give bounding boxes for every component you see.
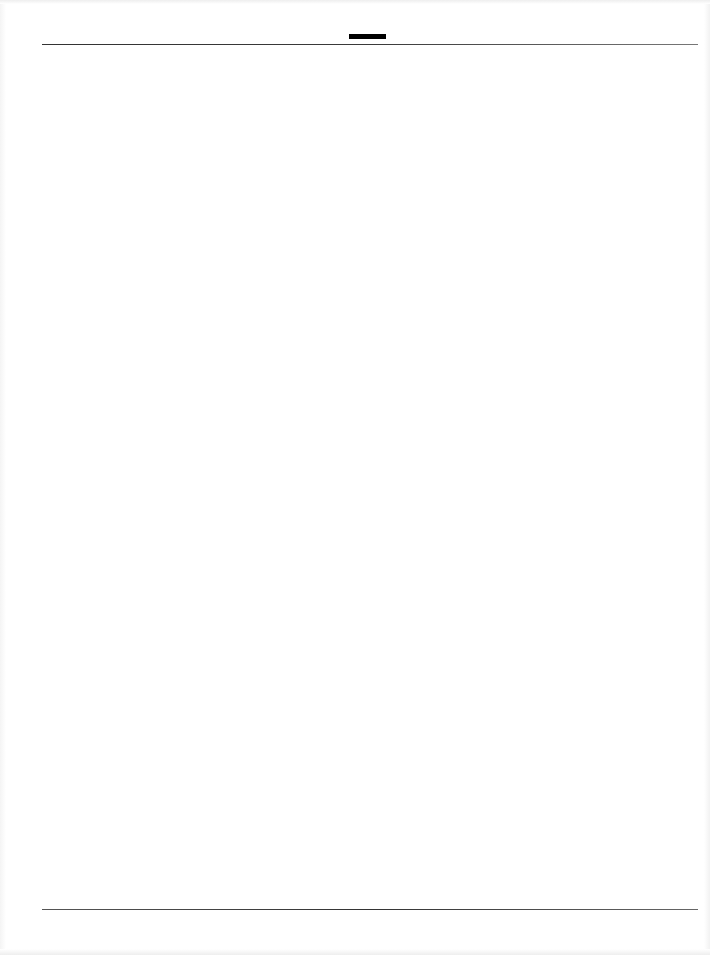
document-page (0, 0, 710, 955)
scan-edge-bottom (0, 949, 710, 955)
footer-rule (42, 909, 698, 910)
header-redaction-bar (349, 34, 386, 39)
page-body (42, 50, 698, 900)
header-rule (42, 44, 698, 45)
scan-edge-top (0, 0, 710, 4)
